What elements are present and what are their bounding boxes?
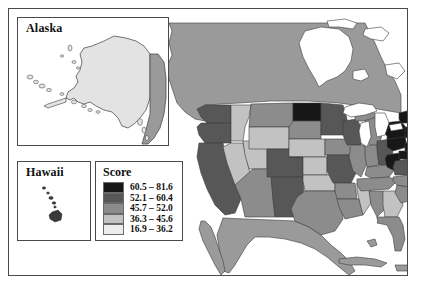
legend-entry: 36.3 – 45.6 <box>103 214 173 225</box>
legend-entry-label: 52.1 – 60.4 <box>130 193 173 203</box>
hawaii-map-svg <box>18 162 90 240</box>
bering-sea-islands <box>60 45 79 69</box>
legend-swatch <box>103 193 124 204</box>
legend-swatch <box>103 214 124 225</box>
region-sd <box>289 121 321 139</box>
legend-title: Score <box>103 165 131 179</box>
legend-entry-list: 60.5 – 81.6 52.1 – 60.4 45.7 – 52.0 36.3… <box>103 182 173 235</box>
legend-entry-label: 45.7 – 52.0 <box>130 203 173 213</box>
legend-swatch <box>103 182 124 193</box>
choropleth-map-figure: Alaska <box>8 8 408 276</box>
region-md <box>399 151 408 159</box>
legend-entry-label: 36.3 – 45.6 <box>130 214 173 224</box>
region-wy <box>249 127 289 149</box>
region-hawaii <box>42 187 62 222</box>
region-hispaniola <box>395 265 408 271</box>
legend-swatch <box>103 224 124 235</box>
legend-entry: 45.7 – 52.0 <box>103 203 173 214</box>
legend-entry: 60.5 – 81.6 <box>103 182 173 193</box>
hawaii-inset: Hawaii <box>17 161 91 241</box>
legend-swatch <box>103 203 124 214</box>
legend-entry: 16.9 – 36.2 <box>103 224 173 235</box>
legend-entry: 52.1 – 60.4 <box>103 193 173 204</box>
legend-entry-label: 16.9 – 36.2 <box>130 224 173 234</box>
alaska-peninsula <box>44 98 66 108</box>
region-ne <box>289 139 325 157</box>
region-nj <box>405 143 408 151</box>
region-va <box>393 159 408 175</box>
region-nd <box>293 103 321 121</box>
region-ne-coast <box>405 127 408 139</box>
region-mt <box>249 103 293 127</box>
legend: Score 60.5 – 81.6 52.1 – 60.4 45.7 – 52.… <box>95 161 183 241</box>
region-alaska <box>66 36 150 128</box>
alaska-map-svg <box>18 18 168 145</box>
region-ar <box>335 183 357 199</box>
legend-entry-label: 60.5 – 81.6 <box>130 182 173 192</box>
region-vt-nh <box>399 111 408 123</box>
alaska-inset: Alaska <box>17 17 169 146</box>
